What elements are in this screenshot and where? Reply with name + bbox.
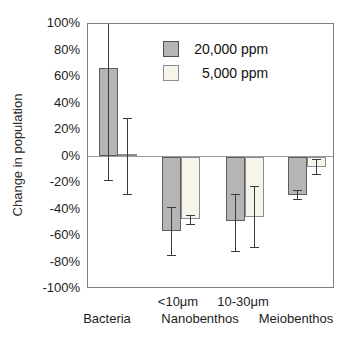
x-axis-sublabel: 10-30μm — [217, 294, 269, 309]
error-bar-cap — [186, 215, 195, 216]
error-bar — [316, 159, 317, 174]
y-tick-label: 80% — [0, 41, 80, 59]
y-tick-label: -100% — [0, 279, 80, 297]
error-bar — [127, 118, 128, 194]
y-tick-label: 20% — [0, 120, 80, 138]
y-tick-label: 0% — [0, 147, 80, 165]
error-bar-cap — [123, 194, 132, 195]
error-bar — [254, 186, 255, 247]
x-axis-label: Bacteria — [83, 311, 131, 326]
error-bar — [190, 215, 191, 224]
y-tick-label: -20% — [0, 173, 80, 191]
legend-item-5000ppm: 5,000 ppm — [163, 65, 268, 81]
legend-label-20000ppm-unit: ppm — [241, 41, 268, 57]
error-bar-cap — [293, 190, 302, 191]
legend-label-5000ppm-unit: ppm — [241, 65, 268, 81]
error-bar-cap — [231, 251, 240, 252]
legend-item-20000ppm: 20,000 ppm — [163, 41, 268, 57]
x-axis-label: Nanobenthos — [161, 311, 238, 326]
error-bar-cap — [123, 118, 132, 119]
legend-label-5000ppm: 5,000 ppm — [189, 65, 268, 81]
error-bar-cap — [104, 180, 113, 181]
error-bar-cap — [167, 207, 176, 208]
legend-label-20000ppm: 20,000 ppm — [189, 41, 268, 57]
y-tick-label: 100% — [0, 14, 80, 32]
error-bar — [297, 190, 298, 199]
error-bar-cap — [312, 174, 321, 175]
y-tick-label: 60% — [0, 67, 80, 85]
error-bar — [108, 23, 109, 180]
y-tick-label: -60% — [0, 226, 80, 244]
legend-swatch-5000ppm-icon — [163, 65, 179, 81]
error-bar-cap — [231, 194, 240, 195]
y-tick-label: 40% — [0, 94, 80, 112]
legend-label-5000ppm-number: 5,000 — [189, 65, 237, 81]
legend-label-20000ppm-number: 20,000 — [189, 41, 237, 57]
x-axis-label: Meiobenthos — [259, 311, 333, 326]
population-change-bar-chart: Change in population 100%80%60%40%20%0%-… — [0, 0, 355, 340]
error-bar-cap — [293, 199, 302, 200]
legend: 20,000 ppm 5,000 ppm — [163, 41, 268, 81]
error-bar — [235, 194, 236, 251]
x-axis-sublabel: <10μm — [158, 294, 198, 309]
bar-5000ppm-group1 — [181, 157, 200, 219]
error-bar-cap — [167, 255, 176, 256]
error-bar-cap — [250, 247, 259, 248]
error-bar — [171, 207, 172, 255]
legend-swatch-20000ppm-icon — [163, 41, 179, 57]
y-tick-label: -40% — [0, 200, 80, 218]
error-bar-cap — [186, 224, 195, 225]
error-bar-cap — [312, 159, 321, 160]
y-tick-label: -80% — [0, 253, 80, 271]
error-bar-cap — [250, 186, 259, 187]
